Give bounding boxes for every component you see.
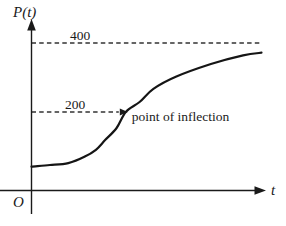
origin-label: O (13, 194, 24, 210)
inflection-annotation: point of inflection (132, 109, 230, 124)
x-axis-label: t (271, 182, 276, 198)
x-axis-arrowhead-icon (255, 186, 267, 195)
asymptote-value-label: 400 (70, 28, 91, 43)
y-axis-label: P(t) (12, 4, 36, 21)
y-axis-arrowhead-icon (27, 19, 36, 31)
inflection-value-label: 200 (65, 97, 86, 112)
function-graph: P(t) t O 400 200 point of inflection (0, 0, 286, 226)
logistic-growth-figure: P(t) t O 400 200 point of inflection (0, 0, 286, 226)
